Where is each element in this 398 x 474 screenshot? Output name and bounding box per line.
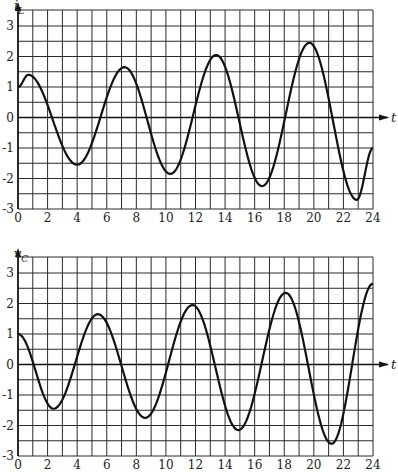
x-tick-label: 0: [14, 458, 22, 472]
y-tick-label: 1: [6, 327, 14, 341]
x-tick-label: 6: [103, 458, 111, 472]
x-tick-label: 20: [306, 211, 321, 225]
y-tick-label: -2: [2, 419, 14, 433]
y-tick-label: 1: [6, 80, 14, 94]
x-tick-label: 10: [158, 211, 173, 225]
x-tick-label: 8: [133, 458, 141, 472]
y-tick-label: -1: [2, 141, 14, 155]
x-tick-label: 14: [217, 458, 233, 472]
x-tick-label: 24: [365, 458, 381, 472]
t-axis-arrow-icon: [379, 362, 389, 368]
grid: [18, 257, 373, 456]
x-tick-label: 6: [103, 211, 111, 225]
y-tick-label: -3: [2, 202, 14, 216]
y-tick-label: 0: [6, 358, 14, 372]
x-tick-label: 4: [73, 211, 81, 225]
vc-chart: tvC3210-1-2-3024681012141618202224: [2, 246, 397, 472]
x-tick-label: 10: [158, 458, 173, 472]
t-axis-label: t: [391, 110, 397, 125]
x-tick-label: 12: [188, 211, 203, 225]
y-tick-label: -1: [2, 388, 14, 402]
x-tick-label: 8: [133, 211, 141, 225]
t-axis-arrow-icon: [379, 115, 389, 121]
x-tick-label: 14: [217, 211, 233, 225]
y-tick-label: 0: [6, 111, 14, 125]
figure: tiL3210-1-2-3024681012141618202224 tvC32…: [0, 0, 398, 474]
t-axis-label: t: [391, 357, 397, 372]
x-tick-label: 12: [188, 458, 203, 472]
x-tick-label: 16: [247, 458, 262, 472]
x-tick-label: 22: [336, 458, 351, 472]
x-tick-label: 20: [306, 458, 321, 472]
y-tick-label: 2: [6, 297, 14, 311]
y-tick-label: 3: [6, 19, 14, 33]
y-axis-label: iL: [14, 0, 24, 16]
y-tick-label: -2: [2, 172, 14, 186]
y-axis-label: vC: [14, 246, 28, 264]
x-tick-label: 18: [277, 211, 292, 225]
y-tick-label: -3: [2, 449, 14, 463]
x-tick-label: 18: [277, 458, 292, 472]
y-tick-label: 2: [6, 50, 14, 64]
x-tick-label: 16: [247, 211, 262, 225]
il-chart: tiL3210-1-2-3024681012141618202224: [2, 0, 397, 225]
x-tick-label: 22: [336, 211, 351, 225]
y-tick-label: 3: [6, 266, 14, 280]
x-tick-label: 2: [44, 458, 52, 472]
x-tick-label: 2: [44, 211, 52, 225]
x-tick-label: 0: [14, 211, 22, 225]
x-tick-label: 24: [365, 211, 381, 225]
x-tick-label: 4: [73, 458, 81, 472]
